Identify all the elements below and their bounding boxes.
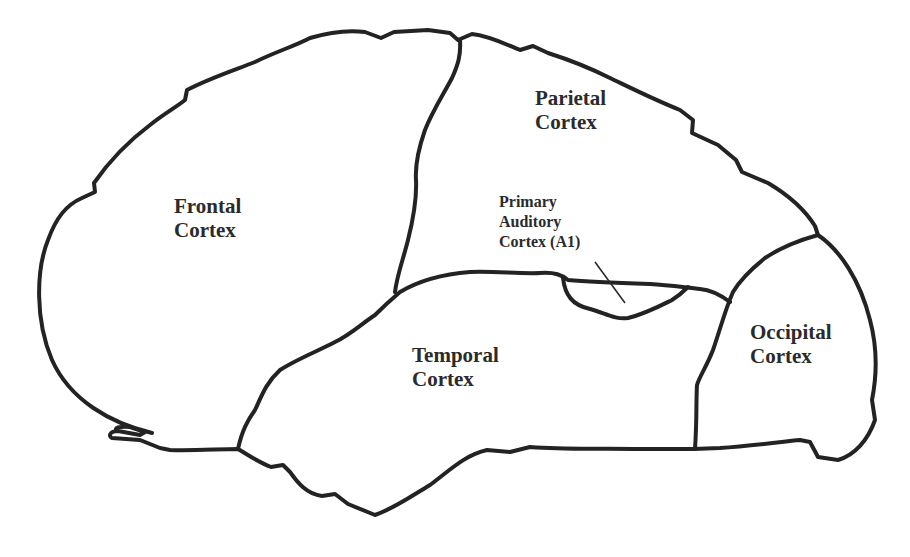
temporal-label-line-1: Temporal — [412, 343, 499, 367]
central-sulcus — [395, 40, 460, 292]
parietal-label-line-2: Cortex — [535, 110, 606, 134]
primary-auditory-cortex-label: Primary Auditory Cortex (A1) — [499, 192, 580, 252]
parietal-cortex-label: Parietal Cortex — [535, 86, 606, 134]
a1-label-line-2: Auditory — [499, 212, 580, 232]
a1-label-line-3: Cortex (A1) — [499, 232, 580, 252]
temporal-label-line-2: Cortex — [412, 367, 499, 391]
occipital-label-line-1: Occipital — [750, 320, 832, 344]
frontal-cortex-label: Frontal Cortex — [174, 194, 241, 242]
occipital-label-line-2: Cortex — [750, 344, 832, 368]
brain-lobes-diagram — [0, 0, 910, 557]
occipital-cortex-label: Occipital Cortex — [750, 320, 832, 368]
parietal-label-line-1: Parietal — [535, 86, 606, 110]
frontal-label-line-1: Frontal — [174, 194, 241, 218]
frontal-label-line-2: Cortex — [174, 218, 241, 242]
a1-label-line-1: Primary — [499, 192, 580, 212]
temporal-cortex-label: Temporal Cortex — [412, 343, 499, 391]
